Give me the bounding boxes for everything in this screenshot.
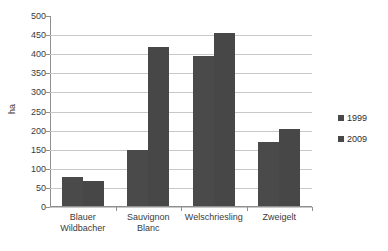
y-axis-tick bbox=[46, 150, 50, 151]
category-label-line: Blauer bbox=[50, 212, 116, 223]
bar-group bbox=[193, 16, 235, 206]
category-label-line: Sauvignon bbox=[116, 212, 182, 223]
y-axis-tick bbox=[46, 169, 50, 170]
bar-group bbox=[258, 16, 300, 206]
bar-1999-welschriesling bbox=[193, 56, 214, 206]
y-axis-tick bbox=[46, 112, 50, 113]
y-axis-tick-label: 450 bbox=[12, 31, 46, 40]
y-axis-tick-label: 250 bbox=[12, 108, 46, 117]
y-axis-tick-label: 0 bbox=[12, 203, 46, 212]
bar-2009-sauvignon-blanc bbox=[148, 47, 169, 206]
y-axis-tick-label: 300 bbox=[12, 88, 46, 97]
cropped-title-remnant bbox=[55, 0, 255, 6]
y-axis-tick bbox=[46, 16, 50, 17]
bar-1999-zweigelt bbox=[258, 142, 279, 206]
category-label-line: Blanc bbox=[116, 223, 182, 234]
x-axis-category-separator bbox=[247, 207, 248, 211]
y-axis-tick-label: 150 bbox=[12, 146, 46, 155]
legend-label: 2009 bbox=[347, 135, 367, 144]
y-axis-tick-label: 400 bbox=[12, 50, 46, 59]
plot-area bbox=[50, 16, 312, 207]
x-axis-category-separator bbox=[312, 207, 313, 211]
category-label-line: Welschriesling bbox=[181, 212, 247, 223]
y-axis-tick-labels: 500450400350300250200150100500 bbox=[12, 0, 46, 251]
bar-chart: ha 500450400350300250200150100500 Blauer… bbox=[0, 0, 388, 251]
bar-1999-sauvignon-blanc bbox=[127, 150, 148, 206]
y-axis-tick-label: 350 bbox=[12, 69, 46, 78]
y-axis-tick bbox=[46, 207, 50, 208]
x-axis-category-separator bbox=[181, 207, 182, 211]
bar-2009-blauer-wildbacher bbox=[83, 181, 104, 206]
bar-1999-blauer-wildbacher bbox=[62, 177, 83, 206]
x-axis-category-label: SauvignonBlanc bbox=[116, 212, 182, 234]
y-axis-tick-label: 200 bbox=[12, 127, 46, 136]
y-axis-tick bbox=[46, 73, 50, 74]
legend-swatch-icon bbox=[338, 136, 344, 142]
legend-item-1999[interactable]: 1999 bbox=[338, 113, 367, 123]
legend-label: 1999 bbox=[347, 114, 367, 123]
y-axis-tick bbox=[46, 188, 50, 189]
chart-legend: 19992009 bbox=[338, 113, 367, 155]
x-axis-category-separator bbox=[116, 207, 117, 211]
bar-2009-zweigelt bbox=[279, 129, 300, 206]
y-axis-tick-label: 50 bbox=[12, 184, 46, 193]
category-label-line: Zweigelt bbox=[247, 212, 313, 223]
y-axis-tick bbox=[46, 92, 50, 93]
legend-item-2009[interactable]: 2009 bbox=[338, 134, 367, 144]
y-axis-tick-label: 100 bbox=[12, 165, 46, 174]
bar-group bbox=[62, 16, 104, 206]
x-axis-category-label: BlauerWildbacher bbox=[50, 212, 116, 234]
x-axis-category-label: Zweigelt bbox=[247, 212, 313, 223]
category-label-line: Wildbacher bbox=[50, 223, 116, 234]
y-axis-tick bbox=[46, 35, 50, 36]
y-axis-tick bbox=[46, 131, 50, 132]
x-axis-category-label: Welschriesling bbox=[181, 212, 247, 223]
bar-2009-welschriesling bbox=[214, 33, 235, 206]
bar-group bbox=[127, 16, 169, 206]
y-axis-tick-label: 500 bbox=[12, 12, 46, 21]
y-axis-tick bbox=[46, 54, 50, 55]
legend-swatch-icon bbox=[338, 115, 344, 121]
